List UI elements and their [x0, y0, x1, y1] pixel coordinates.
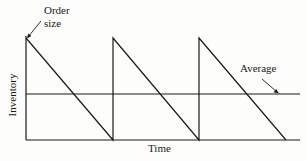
average-arrow	[262, 79, 279, 94]
x-axis-label: Time	[148, 142, 171, 155]
y-axis-label: Inventory	[6, 74, 18, 117]
order-size-label-line1: Order	[44, 4, 70, 17]
order-size-label-line2: size	[44, 17, 70, 30]
order-size-arrow	[27, 21, 41, 39]
average-annotation: Average	[240, 62, 276, 75]
inventory-sawtooth	[26, 38, 286, 140]
order-size-annotation: Order size	[44, 4, 70, 30]
